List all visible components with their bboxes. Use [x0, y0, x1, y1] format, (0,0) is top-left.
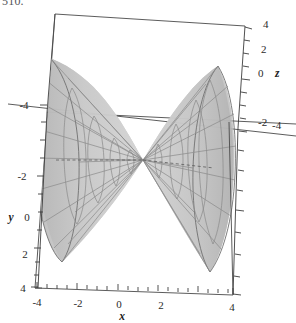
x-tick-label-4: 4 [229, 301, 235, 313]
y-tick-label-0: 0 [24, 211, 30, 223]
plot-3d-double-cone: -4 -2 0 2 4 x -4 -2 [0, 0, 296, 323]
cone-left-nappe [34, 58, 143, 262]
y-axis-group: -4 -2 0 2 4 y [6, 99, 47, 294]
z-axis-label: z [274, 67, 280, 79]
x-tick-label--4: -4 [32, 296, 42, 308]
z-tick-label-0: 0 [258, 67, 264, 79]
x-axis-label: x [118, 310, 125, 322]
z-tick-label-4: 4 [263, 18, 269, 30]
x-axis-line [35, 288, 233, 295]
z-tick-label-2: 2 [261, 43, 267, 55]
frame-edge-top-back [55, 14, 245, 26]
x-axis-ticks [37, 282, 233, 294]
x-axis-group: -4 -2 0 2 4 x [32, 282, 235, 322]
z-axis-group: 4 2 0 z -2 -4 [233, 18, 282, 295]
cone-right-nappe [143, 66, 236, 272]
x-tick-label--2: -2 [73, 297, 82, 309]
x-tick-label-2: 2 [158, 299, 164, 311]
figure-container: 510. [0, 0, 296, 323]
z-tick-label--2: -2 [258, 116, 267, 128]
y-axis-label: y [6, 211, 14, 224]
y-tick-label--2: -2 [17, 170, 26, 182]
z-tick-label--4: -4 [272, 119, 282, 131]
y-tick-label-2: 2 [22, 248, 28, 260]
x-tick-label-0: 0 [116, 298, 122, 310]
y-tick-label-4: 4 [20, 282, 26, 294]
y-tick-label--4: -4 [19, 99, 29, 111]
